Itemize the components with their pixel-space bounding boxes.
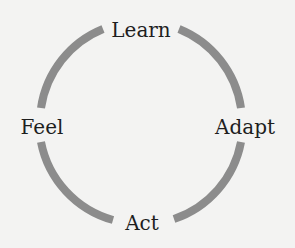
arc-act-to-feel [41, 142, 113, 220]
node-feel-label: Feel [21, 117, 64, 137]
arc-learn-to-adapt [179, 29, 241, 108]
node-adapt-label: Adapt [215, 117, 275, 137]
arc-feel-to-learn [41, 29, 103, 108]
cycle-diagram: Learn Adapt Act Feel [0, 0, 295, 248]
arc-adapt-to-act [174, 142, 241, 219]
node-learn-label: Learn [111, 20, 170, 40]
node-act-label: Act [125, 213, 159, 233]
